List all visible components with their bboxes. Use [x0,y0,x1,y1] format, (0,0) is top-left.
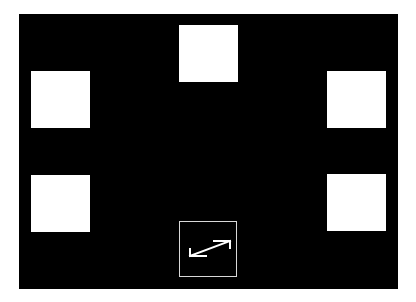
tile-top-center[interactable] [179,25,238,82]
diagonal-double-arrow-icon [180,222,238,278]
tile-bottom-right[interactable] [327,174,386,231]
expand-button[interactable] [179,221,237,277]
tile-bottom-left[interactable] [31,175,90,232]
tile-middle-left[interactable] [31,71,90,128]
tile-middle-right[interactable] [327,71,386,128]
